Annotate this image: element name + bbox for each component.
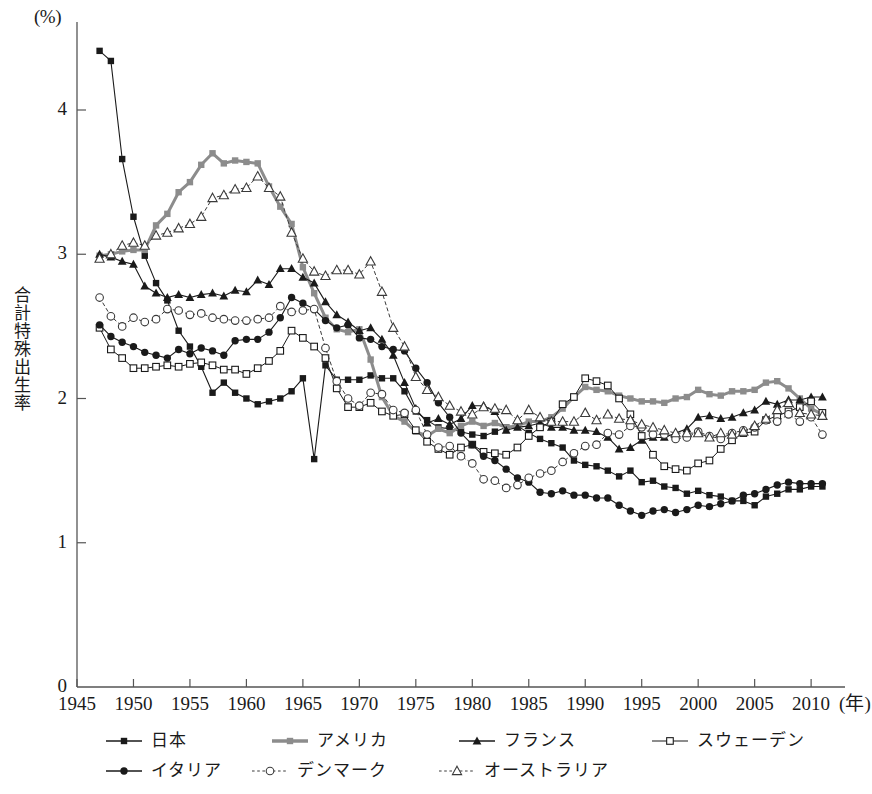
legend-item[interactable]: アメリカ xyxy=(270,730,388,752)
legend-item[interactable]: イタリア xyxy=(104,760,222,782)
data-point xyxy=(243,371,250,378)
legend-marker xyxy=(667,738,674,745)
data-point xyxy=(288,327,295,334)
data-point xyxy=(559,401,566,408)
data-point xyxy=(255,401,261,407)
x-tick-label: 2000 xyxy=(668,694,728,714)
data-point xyxy=(276,192,285,200)
data-point xyxy=(288,294,295,301)
data-point xyxy=(604,382,611,389)
data-point xyxy=(378,390,386,398)
data-point xyxy=(774,481,781,488)
data-point xyxy=(762,486,769,493)
data-point xyxy=(400,378,409,386)
data-point xyxy=(491,477,499,485)
data-point xyxy=(480,475,488,483)
data-point xyxy=(310,305,318,313)
data-point xyxy=(356,377,362,383)
legend-item[interactable]: 日本 xyxy=(104,730,187,752)
y-tick-label: 3 xyxy=(41,243,67,262)
data-point xyxy=(119,156,125,162)
data-point xyxy=(231,286,240,294)
data-point xyxy=(672,395,678,401)
data-point xyxy=(322,344,330,352)
data-point xyxy=(107,333,114,340)
y-tick-label: 2 xyxy=(41,388,67,407)
data-point xyxy=(684,394,690,400)
data-point xyxy=(400,342,409,350)
data-point xyxy=(469,418,475,424)
legend-marker xyxy=(287,738,293,744)
data-point xyxy=(300,335,307,342)
data-point xyxy=(343,265,352,273)
data-point xyxy=(570,491,577,498)
data-point xyxy=(458,444,465,451)
data-point xyxy=(288,308,296,316)
data-point xyxy=(412,406,420,414)
data-point xyxy=(140,281,149,289)
data-point xyxy=(299,307,307,315)
data-point xyxy=(604,429,612,437)
data-point xyxy=(650,451,657,458)
data-point xyxy=(604,494,611,501)
data-point xyxy=(219,190,228,198)
data-point xyxy=(569,417,578,425)
data-point xyxy=(492,450,499,457)
data-point xyxy=(152,315,160,323)
data-point xyxy=(153,363,160,370)
data-point xyxy=(593,463,599,469)
data-point xyxy=(570,450,578,458)
data-point xyxy=(638,512,645,519)
legend-item[interactable]: オーストラリア xyxy=(437,760,609,782)
legend-item[interactable]: スウェーデン xyxy=(650,730,805,752)
data-point xyxy=(650,478,656,484)
data-point xyxy=(447,430,453,436)
chart-legend: 日本アメリカフランススウェーデンイタリアデンマークオーストラリア xyxy=(0,726,872,794)
data-point xyxy=(220,315,228,323)
data-point xyxy=(751,490,758,497)
data-point xyxy=(322,317,329,324)
legend-item[interactable]: フランス xyxy=(457,730,576,752)
data-point xyxy=(164,362,171,369)
data-point xyxy=(411,372,420,380)
data-point xyxy=(558,417,567,425)
data-point xyxy=(627,467,633,473)
data-point xyxy=(705,411,714,419)
data-point xyxy=(593,378,600,385)
data-point xyxy=(96,294,104,302)
data-point xyxy=(367,389,375,397)
series-6 xyxy=(95,172,827,441)
legend-marker-filled-triangle-icon xyxy=(457,732,497,750)
data-point xyxy=(683,506,690,513)
data-point xyxy=(232,366,239,373)
data-point xyxy=(186,350,193,357)
data-point xyxy=(96,321,103,328)
data-point xyxy=(220,366,227,373)
data-point xyxy=(276,302,284,310)
data-point xyxy=(243,395,249,401)
data-point xyxy=(253,276,262,284)
legend-marker xyxy=(120,767,127,774)
legend-marker xyxy=(266,767,274,775)
data-point xyxy=(174,290,183,298)
data-point xyxy=(412,427,419,434)
data-point xyxy=(750,405,759,413)
data-point xyxy=(276,264,285,272)
data-point xyxy=(344,321,351,328)
data-point xyxy=(118,323,126,331)
legend-marker xyxy=(121,738,127,744)
data-point xyxy=(401,418,407,424)
data-point xyxy=(377,287,386,295)
y-tick-label: 1 xyxy=(41,532,67,551)
legend-item[interactable]: デンマーク xyxy=(250,760,387,782)
data-point xyxy=(819,431,827,439)
data-point xyxy=(514,474,521,481)
data-point xyxy=(537,436,543,442)
data-point xyxy=(185,219,194,227)
data-point xyxy=(118,339,125,346)
data-point xyxy=(141,349,148,356)
data-point xyxy=(187,343,193,349)
data-point xyxy=(524,405,533,413)
data-point xyxy=(175,307,183,315)
legend-marker-filled-square-icon xyxy=(104,732,144,750)
